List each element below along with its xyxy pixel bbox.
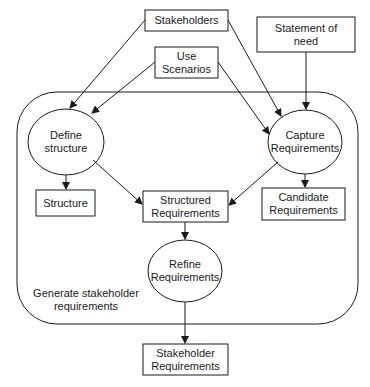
candidate-requirements-label: Candidate Requirements (262, 188, 345, 220)
define-structure-label: Define structure (28, 109, 104, 175)
capture-requirements-label: Capture Requirements (268, 110, 342, 174)
statement-of-need-label: Statement of need (257, 17, 355, 52)
refine-requirements-label: Refine Requirements (148, 240, 222, 302)
use-scenarios-label: Use Scenarios (155, 47, 218, 78)
container-label: Generate stakeholder requirements (28, 287, 144, 313)
structure-label: Structure (36, 190, 95, 216)
edge-stakeholders-to-define (70, 20, 145, 108)
structured-requirements-label: Structured Requirements (143, 191, 228, 222)
edge-usescenarios-to-capture (218, 62, 269, 134)
diagram-canvas: Stakeholders Use Scenarios Statement of … (0, 0, 370, 387)
edge-usescenarios-to-define (92, 62, 155, 113)
stakeholders-label: Stakeholders (145, 10, 228, 31)
stakeholder-requirements-label: Stakeholder Requirements (143, 344, 228, 375)
